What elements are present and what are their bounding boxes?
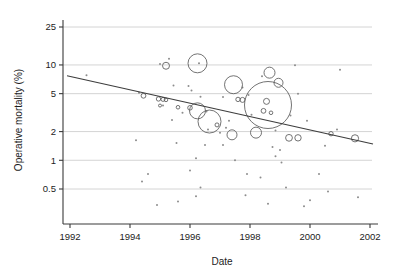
- small-study-dot: [275, 130, 277, 132]
- small-study-dot: [200, 96, 202, 98]
- small-study-dot: [260, 177, 262, 179]
- small-study-dot: [168, 58, 170, 60]
- x-tick-label-1998: 1998: [239, 231, 260, 242]
- small-study-dot: [195, 195, 197, 197]
- small-study-dot: [272, 146, 274, 148]
- small-study-dot: [234, 159, 236, 161]
- small-study-dot: [176, 142, 178, 144]
- small-study-dot: [162, 105, 164, 107]
- y-tick-label-1: 1: [51, 155, 56, 166]
- y-tick-label-25: 25: [45, 21, 56, 32]
- y-axis-title: Operative mortality (%): [13, 69, 24, 171]
- small-study-dot: [327, 191, 329, 193]
- x-tick-label-1996: 1996: [179, 231, 200, 242]
- small-study-dot: [198, 62, 200, 64]
- small-study-dot: [246, 173, 248, 175]
- y-tick-label-5: 5: [51, 88, 56, 99]
- small-study-dot: [336, 129, 338, 131]
- small-study-dot: [267, 203, 269, 205]
- small-study-dot: [207, 129, 209, 131]
- small-study-dot: [275, 155, 277, 157]
- small-study-dot: [204, 144, 206, 146]
- operative-mortality-scatter-chart: 199219941996199820002002 0.51251025 Date…: [0, 0, 395, 271]
- small-study-dot: [228, 120, 230, 122]
- small-study-dot: [318, 173, 320, 175]
- small-study-dot: [177, 200, 179, 202]
- small-study-dot: [279, 149, 281, 151]
- x-tick-label-2000: 2000: [299, 231, 320, 242]
- small-study-dot: [191, 89, 193, 91]
- small-study-dot: [248, 94, 250, 96]
- small-study-dot: [195, 157, 197, 159]
- small-study-dot: [245, 194, 247, 196]
- small-study-dot: [189, 170, 191, 172]
- small-study-dot: [222, 96, 224, 98]
- small-study-dot: [159, 63, 161, 65]
- small-study-dot: [297, 93, 299, 95]
- small-study-dot: [135, 139, 137, 141]
- small-study-dot: [171, 119, 173, 121]
- y-tick-label-0.5: 0.5: [43, 183, 56, 194]
- y-tick-label-2: 2: [51, 126, 56, 137]
- small-study-dot: [324, 145, 326, 147]
- small-study-dot: [357, 196, 359, 198]
- small-study-dot: [303, 205, 305, 207]
- x-tick-label-2002: 2002: [359, 231, 380, 242]
- small-study-dot: [141, 180, 143, 182]
- small-study-dot: [222, 144, 224, 146]
- small-study-dot: [219, 132, 221, 134]
- small-study-dot: [339, 69, 341, 71]
- x-tick-label-1992: 1992: [59, 231, 80, 242]
- small-study-dot: [86, 74, 88, 76]
- small-study-dot: [182, 112, 184, 114]
- small-study-dot: [285, 186, 287, 188]
- small-study-dot: [188, 85, 190, 87]
- small-study-dot: [251, 114, 253, 116]
- small-study-dot: [281, 161, 283, 163]
- y-tick-label-10: 10: [45, 59, 56, 70]
- small-study-dot: [147, 173, 149, 175]
- chart-figure: 199219941996199820002002 0.51251025 Date…: [0, 0, 395, 271]
- small-study-dot: [225, 127, 227, 129]
- small-study-dot: [294, 64, 296, 66]
- x-tick-label-1994: 1994: [119, 231, 140, 242]
- small-study-dot: [306, 120, 308, 122]
- small-study-dot: [173, 84, 175, 86]
- small-study-dot: [309, 199, 311, 201]
- small-study-dot: [200, 186, 202, 188]
- small-study-dot: [156, 204, 158, 206]
- small-study-dot: [261, 75, 263, 77]
- x-axis-title: Date: [211, 256, 233, 267]
